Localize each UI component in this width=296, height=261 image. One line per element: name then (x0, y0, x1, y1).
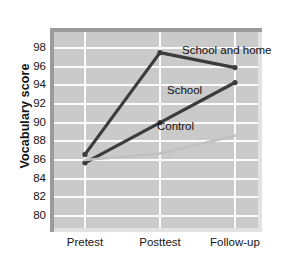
x-axis-tick-label: Follow-up (180, 236, 290, 249)
series-annotation-label: Control (157, 120, 194, 132)
x-axis-tick-labels: PretestPosttestFollow-up (0, 0, 296, 261)
series-annotation-label: School (167, 84, 202, 96)
chart-figure: Vocabulary score 98969492908886848280 Pr… (0, 0, 296, 261)
series-annotation-label: School and home (182, 44, 272, 56)
